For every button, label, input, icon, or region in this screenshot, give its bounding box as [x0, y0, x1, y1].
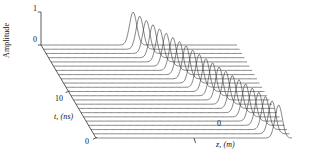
- waterfall-trace: [56, 38, 252, 71]
- waterfall-trace: [66, 55, 262, 88]
- axis-lines-group: [38, 12, 196, 143]
- time-tick-0: 0: [85, 137, 89, 146]
- waterfall-trace: [96, 105, 292, 138]
- time-tick-10: 10: [55, 94, 63, 103]
- space-axis-label: z, (m): [216, 140, 235, 149]
- trace-group: [41, 12, 292, 138]
- waterfall-plot-canvas: [0, 0, 320, 163]
- space-tick-mark-0: [194, 138, 196, 143]
- amplitude-tick-1: 1: [33, 4, 37, 13]
- waterfall-trace: [46, 20, 242, 53]
- figure-container: Amplitude t, (ns) z, (m) 1 0 10 0 0: [0, 0, 320, 163]
- amplitude-tick-0: 0: [33, 35, 37, 44]
- waterfall-trace: [54, 33, 250, 66]
- waterfall-trace: [44, 17, 240, 50]
- space-tick-0: 0: [217, 119, 221, 128]
- waterfall-trace: [49, 25, 245, 58]
- time-axis-label: t, (ns): [54, 112, 73, 121]
- waterfall-trace: [61, 46, 257, 79]
- waterfall-trace: [71, 63, 267, 96]
- waterfall-trace: [91, 97, 287, 130]
- waterfall-trace: [84, 84, 280, 117]
- amplitude-axis-label: Amplitude: [2, 23, 11, 58]
- waterfall-trace: [86, 88, 282, 121]
- waterfall-trace: [79, 76, 275, 109]
- waterfall-trace: [51, 29, 247, 62]
- waterfall-trace: [76, 71, 272, 104]
- waterfall-trace: [64, 50, 260, 83]
- waterfall-trace: [59, 42, 255, 75]
